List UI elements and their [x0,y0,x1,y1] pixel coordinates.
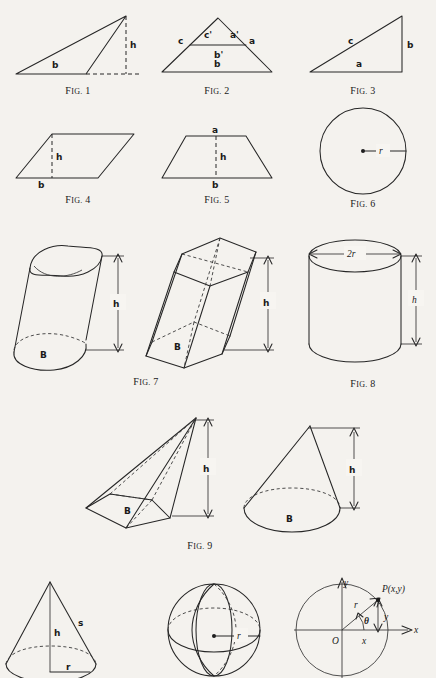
fig-word-small: IG. [356,87,367,96]
figure-4: h b [8,112,148,188]
fig2-label-a: a [249,36,255,46]
fig12-label-y-axis: y [343,578,349,588]
fig2-label-b: b [214,59,221,69]
fig4-label-h: h [56,152,62,162]
fig8-label-2r: 2r [347,249,356,259]
fig3-label-a: a [356,59,362,69]
fig1-label-b: b [52,60,59,70]
fig-word-small: IG. [210,87,221,96]
fig12-label-theta: θ [364,616,369,626]
figure-8-caption: FIG. 8 [296,378,430,389]
figure-11-sphere: r [150,578,284,678]
fig-word-small: IG. [193,542,204,551]
fig9-pyr-label-h: h [203,464,209,474]
fig-number: 4 [85,194,90,205]
fig10-label-r: r [66,662,71,672]
fig12-label-y: y [383,612,389,622]
fig6-label-r: r [379,146,383,156]
fig9-cone-label-h: h [349,465,355,475]
figure-3-caption: FIG. 3 [300,85,426,96]
fig-number: 5 [224,194,229,205]
fig-number: 8 [370,378,375,389]
fig12-label-x-axis: x [413,625,419,635]
figure-5-caption: FIG. 5 [152,194,282,205]
fig9-cone-label-B: B [286,514,293,524]
figure-7-caption: FIG. 7 [6,376,286,387]
fig4-label-b: b [38,180,45,190]
fig-number: 3 [370,85,375,96]
figure-1-caption: FIG. 1 [8,85,148,96]
fig7-cyl-label-B: B [40,350,47,360]
fig12-label-x: x [361,636,367,646]
fig12-label-r: r [354,600,358,610]
fig3-label-b: b [407,40,414,50]
figure-5: a h b [152,112,282,188]
figure-3: c b a [300,4,426,84]
fig-number: 7 [153,376,158,387]
fig-number: 2 [224,85,229,96]
figure-7-oblique-cylinder: h B [6,232,136,372]
fig10-label-s: s [78,618,83,628]
figure-7-oblique-prism: h B [136,226,286,372]
fig-number: 9 [207,540,212,551]
fig-number: 6 [370,198,375,209]
fig8-label-h: h [412,295,417,305]
fig12-label-origin: O [332,636,339,646]
figure-6: r [300,106,426,198]
fig2-label-c: c [178,36,183,46]
fig7-prism-label-h: h [263,298,269,308]
figure-2: c c' a' a b' b [152,4,282,84]
figure-9-oblique-pyramid: h B [80,406,230,536]
figure-8: 2r h [296,228,430,376]
figure-9-oblique-cone: h B [240,412,366,536]
fig-word-small: IG. [210,196,221,205]
figure-9-caption: FIG. 9 [130,540,270,551]
fig-word-small: IG. [139,378,150,387]
figure-1: b h [8,4,148,84]
fig2-label-a-prime: a' [230,30,239,40]
fig10-label-h: h [54,628,60,638]
figure-12-unit-circle: y x O r y x P(x,y) θ [290,574,432,678]
fig7-cyl-label-h: h [113,299,119,309]
fig3-label-c: c [348,36,353,46]
fig5-label-b: b [212,180,219,190]
figure-6-caption: FIG. 6 [300,198,426,209]
figure-10-cone-slant: h s r [4,572,144,676]
figure-2-caption: FIG. 2 [152,85,282,96]
fig7-prism-label-B: B [174,342,181,352]
figure-4-caption: FIG. 4 [8,194,148,205]
fig5-label-a: a [212,125,218,135]
fig-word-small: IG. [71,87,82,96]
fig1-label-h: h [130,40,136,50]
fig11-label-r: r [237,631,241,641]
fig2-label-c-prime: c' [204,30,212,40]
fig-word-small: IG. [356,200,367,209]
fig9-pyr-label-B: B [124,506,131,516]
fig12-label-point: P(x,y) [381,584,405,595]
fig-number: 1 [85,85,90,96]
fig-word-small: IG. [71,196,82,205]
fig5-label-h: h [220,152,226,162]
fig-word-small: IG. [356,380,367,389]
